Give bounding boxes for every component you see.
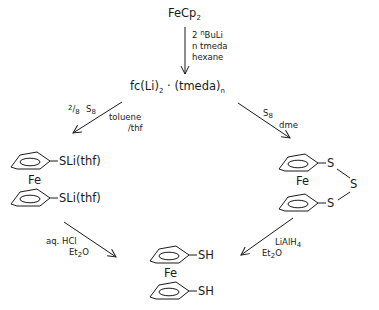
final-product: SH Fe SH [150, 246, 214, 299]
left-final-reagent-1: aq. HCl [46, 236, 77, 246]
left-final-reagent-2: Et2O [69, 247, 89, 259]
right-sulfur-bottom: S [327, 196, 334, 210]
right-reagent: S8 [263, 108, 273, 120]
step1-reagent-3: hexane [192, 52, 223, 62]
cp-ring-top [150, 246, 189, 263]
left-reagent-fraction: 2/8 [68, 104, 80, 116]
left-reagent: S8 [86, 104, 96, 116]
cp-ring-bottom [150, 282, 189, 299]
right-final-reagent-2: Et2O [262, 248, 282, 260]
cp-ring-bottom [11, 189, 50, 206]
final-substituent-bottom: SH [198, 284, 214, 298]
left-product: SLi(thf) Fe SLi(thf) [11, 152, 101, 206]
cp-ring-top [279, 154, 318, 171]
intermediate-compound: fc(Li)2 · (tmeda)n [130, 79, 225, 95]
cp-ring-top [11, 152, 50, 169]
right-solvent: dme [279, 120, 298, 130]
left-solvent-1: toluene [109, 112, 141, 122]
right-product: S S Fe S [279, 154, 357, 211]
left-substituent-bottom: SLi(thf) [59, 191, 101, 205]
left-solvent-2: /thf [128, 123, 144, 133]
step1-reagent-2: n tmeda [192, 41, 228, 51]
right-metal: Fe [296, 174, 309, 188]
left-substituent-top: SLi(thf) [59, 154, 101, 168]
right-sulfur-bridge: S [350, 177, 357, 191]
left-metal: Fe [28, 173, 41, 187]
reaction-scheme: FeCp2 2 nBuLi n tmeda hexane fc(Li)2 · (… [0, 0, 379, 310]
final-metal: Fe [164, 266, 177, 280]
start-compound: FeCp2 [168, 6, 201, 22]
right-sulfur-top: S [327, 156, 334, 170]
final-substituent-top: SH [198, 248, 214, 262]
step1-reagent-1: 2 nBuLi [192, 29, 223, 40]
cp-ring-bottom [279, 194, 318, 211]
